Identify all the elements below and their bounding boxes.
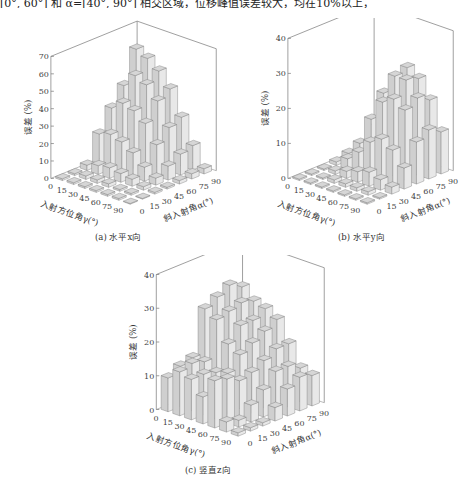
svg-text:90: 90	[211, 177, 221, 186]
svg-text:15: 15	[57, 186, 67, 195]
svg-text:75: 75	[199, 182, 209, 191]
svg-text:20: 20	[39, 140, 49, 149]
svg-text:0: 0	[248, 439, 253, 448]
svg-text:20: 20	[276, 104, 286, 113]
bars	[56, 44, 212, 204]
svg-text:30: 30	[270, 429, 280, 438]
svg-text:0: 0	[154, 414, 159, 423]
svg-text:40: 40	[276, 34, 286, 43]
bars	[293, 62, 449, 204]
svg-text:70: 70	[39, 52, 49, 61]
chart-panel-a: 010203040506070误差 (%)0153045607590入射方位角γ…	[0, 18, 240, 243]
z-axis-label: 误差 (%)	[260, 91, 270, 126]
svg-text:30: 30	[39, 122, 49, 131]
svg-text:90: 90	[350, 206, 360, 215]
svg-text:10: 10	[144, 372, 154, 381]
svg-text:60: 60	[294, 419, 304, 428]
svg-text:75: 75	[307, 414, 317, 423]
svg-text:40: 40	[39, 105, 49, 114]
bar3d-chart-b: 010203040误差 (%)0153045607590入射方位角γ(°)015…	[240, 18, 471, 243]
gamma-axis: 0153045607590入射方位角γ(°)	[276, 182, 360, 228]
svg-text:30: 30	[399, 197, 409, 206]
svg-text:60: 60	[39, 70, 49, 79]
alpha-axis: 0153045607590斜入射角α(°)	[140, 177, 222, 224]
z-axis-label: 误差 (%)	[128, 324, 138, 359]
svg-text:30: 30	[174, 422, 184, 431]
svg-text:30: 30	[144, 304, 154, 313]
z-axis-label: 误差 (%)	[23, 100, 33, 135]
svg-text:60: 60	[186, 187, 196, 196]
svg-text:45: 45	[79, 194, 89, 203]
svg-text:10: 10	[39, 157, 49, 166]
svg-text:30: 30	[305, 190, 315, 199]
svg-text:15: 15	[149, 202, 159, 211]
svg-text:0: 0	[377, 207, 382, 216]
svg-text:90: 90	[319, 409, 329, 418]
svg-text:15: 15	[257, 434, 267, 443]
caption-c: (c) 竖直z向	[185, 463, 231, 475]
svg-text:60: 60	[91, 198, 101, 207]
svg-text:45: 45	[411, 192, 421, 201]
svg-text:75: 75	[339, 202, 349, 211]
chart-panel-c: 010203040误差 (%)0153045607590入射方位角γ(°)015…	[110, 255, 360, 486]
svg-text:60: 60	[198, 430, 208, 439]
caption-a: (a) 水平x向	[95, 230, 141, 242]
svg-text:75: 75	[102, 202, 112, 211]
svg-text:50: 50	[39, 87, 49, 96]
svg-text:20: 20	[144, 338, 154, 347]
svg-text:30: 30	[162, 197, 172, 206]
gamma-axis: 0153045607590入射方位角γ(°)	[39, 182, 123, 228]
z-axis: 010203040506070误差 (%)	[23, 52, 54, 183]
svg-text:15: 15	[386, 202, 396, 211]
svg-text:15: 15	[294, 186, 304, 195]
header-text: [0°, 60°] 和 α=[40°, 90°] 相交区域，位移峰值误差较大，均…	[0, 0, 471, 8]
bars	[161, 280, 319, 436]
svg-text:90: 90	[221, 438, 231, 447]
svg-text:45: 45	[282, 424, 292, 433]
svg-text:90: 90	[113, 206, 123, 215]
chart-panel-b: 010203040误差 (%)0153045607590入射方位角γ(°)015…	[240, 18, 471, 243]
svg-text:75: 75	[436, 182, 446, 191]
svg-text:0: 0	[140, 207, 145, 216]
svg-text:10: 10	[276, 139, 286, 148]
svg-text:0: 0	[285, 182, 290, 191]
svg-text:40: 40	[144, 271, 154, 280]
svg-text:15: 15	[163, 418, 173, 427]
svg-text:90: 90	[448, 177, 458, 186]
svg-text:60: 60	[423, 187, 433, 196]
svg-text:45: 45	[174, 192, 184, 201]
svg-text:45: 45	[186, 426, 196, 435]
svg-text:30: 30	[68, 190, 78, 199]
svg-text:75: 75	[209, 434, 219, 443]
svg-text:30: 30	[276, 69, 286, 78]
caption-b: (b) 水平y向	[338, 230, 385, 242]
alpha-axis: 0153045607590斜入射角α(°)	[248, 409, 330, 456]
svg-text:60: 60	[328, 198, 338, 207]
svg-text:0: 0	[48, 182, 53, 191]
z-axis: 010203040误差 (%)	[128, 271, 159, 415]
svg-text:45: 45	[316, 194, 326, 203]
bar3d-chart-c: 010203040误差 (%)0153045607590入射方位角γ(°)015…	[110, 255, 360, 486]
z-axis: 010203040误差 (%)	[260, 34, 291, 183]
bar3d-chart-a: 010203040506070误差 (%)0153045607590入射方位角γ…	[0, 18, 240, 243]
